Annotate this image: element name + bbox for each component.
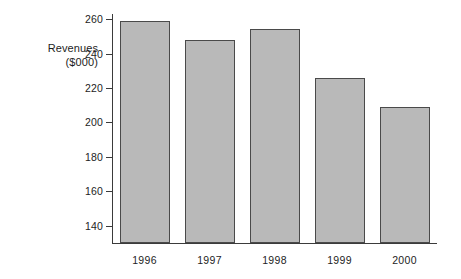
- x-tick-label-1997: 1997: [197, 254, 222, 266]
- x-tick-label-1996: 1996: [132, 254, 157, 266]
- y-tick-label: 200: [85, 117, 103, 128]
- y-tick-label: 160: [85, 186, 103, 197]
- y-tick-mark: [106, 88, 112, 89]
- y-tick-mark: [106, 191, 112, 192]
- bar-2000: [380, 107, 430, 243]
- x-tick-label-1999: 1999: [327, 254, 352, 266]
- y-tick-label: 140: [85, 221, 103, 232]
- y-tick-label: 220: [85, 83, 103, 94]
- bar-1999: [315, 78, 365, 243]
- x-tick-label-1998: 1998: [262, 254, 287, 266]
- y-tick-label: 180: [85, 152, 103, 163]
- y-tick-mark: [106, 157, 112, 158]
- y-tick-label: 260: [85, 14, 103, 25]
- y-tick-mark: [106, 122, 112, 123]
- bar-1997: [185, 40, 235, 243]
- y-tick-label: 240: [85, 48, 103, 59]
- y-tick-mark: [106, 54, 112, 55]
- plot-area: 140160180200220240260 199619971998199920…: [112, 14, 437, 244]
- bar-1996: [120, 21, 170, 243]
- y-tick-mark: [106, 19, 112, 20]
- revenues-bar-chart: Revenues ($000) 140160180200220240260 19…: [0, 0, 461, 279]
- x-axis-line: [112, 243, 437, 244]
- x-tick-label-2000: 2000: [392, 254, 417, 266]
- bar-1998: [250, 29, 300, 243]
- y-tick-mark: [106, 226, 112, 227]
- y-axis-line: [112, 14, 113, 244]
